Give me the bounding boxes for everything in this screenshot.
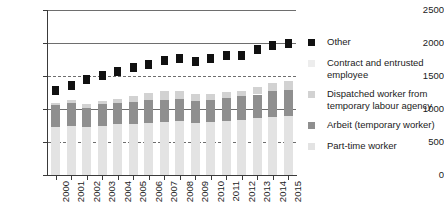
x-axis-tick-label: 2010 bbox=[216, 181, 226, 202]
data-point-marker bbox=[68, 81, 75, 90]
legend-swatch-icon bbox=[308, 39, 315, 46]
data-point-marker bbox=[99, 71, 106, 80]
x-axis-tick-label: 2008 bbox=[185, 181, 195, 202]
x-axis-tick-label: 2011 bbox=[231, 181, 241, 201]
x-axis-tick-label: 2003 bbox=[107, 181, 117, 202]
x-axis-tick-label: 2004 bbox=[123, 181, 133, 202]
data-point-marker bbox=[52, 86, 59, 95]
legend-label: Contract and entrustedemployee bbox=[327, 57, 444, 80]
data-point-marker bbox=[285, 39, 292, 48]
x-axis-tick-mark bbox=[257, 175, 258, 180]
x-axis-tick-mark bbox=[56, 175, 57, 180]
data-point-marker bbox=[238, 51, 245, 60]
legend-item[interactable]: Dispatched worker fromtemporary labour a… bbox=[308, 88, 444, 111]
x-axis-tick-mark bbox=[180, 175, 181, 180]
x-axis-tick-mark bbox=[133, 175, 134, 180]
legend-item[interactable]: Arbeit (temporary worker) bbox=[308, 119, 444, 132]
legend-label: Part-time worker bbox=[327, 140, 444, 152]
data-point-marker bbox=[254, 45, 261, 54]
x-axis-line bbox=[47, 175, 297, 176]
x-axis-tick-label: 2009 bbox=[200, 181, 210, 202]
legend-swatch-icon bbox=[308, 122, 315, 129]
legend: OtherContract and entrustedemployeeDispa… bbox=[308, 36, 444, 161]
x-axis-tick-label: 2013 bbox=[262, 181, 272, 202]
x-axis-tick-mark bbox=[273, 175, 274, 180]
y-axis-tick-mark bbox=[43, 175, 48, 176]
x-axis-tick-mark bbox=[195, 175, 196, 180]
x-axis-tick-mark bbox=[211, 175, 212, 180]
x-axis-tick-mark bbox=[164, 175, 165, 180]
y-axis-tick-label: 0 bbox=[404, 170, 444, 179]
x-axis-tick-mark bbox=[149, 175, 150, 180]
data-point-marker bbox=[223, 51, 230, 60]
x-axis-tick-label: 2007 bbox=[169, 181, 179, 202]
y-axis-tick-label: 2500 bbox=[404, 5, 444, 14]
legend-label: Arbeit (temporary worker) bbox=[327, 119, 444, 131]
legend-item[interactable]: Contract and entrustedemployee bbox=[308, 57, 444, 80]
x-axis-tick-label: 2014 bbox=[278, 181, 288, 202]
data-point-marker bbox=[145, 60, 152, 69]
data-point-marker bbox=[161, 56, 168, 65]
x-axis-tick-label: 2015 bbox=[293, 181, 303, 202]
x-axis-tick-mark bbox=[288, 175, 289, 180]
legend-swatch-icon bbox=[308, 143, 315, 150]
data-point-marker bbox=[192, 57, 199, 66]
x-axis-tick-mark bbox=[242, 175, 243, 180]
x-axis-tick-label: 2012 bbox=[247, 181, 257, 202]
x-axis-tick-mark bbox=[87, 175, 88, 180]
x-axis-tick-mark bbox=[71, 175, 72, 180]
x-axis-tick-label: 2001 bbox=[76, 181, 86, 202]
legend-swatch-icon bbox=[308, 91, 315, 98]
x-axis-tick-label: 2006 bbox=[154, 181, 164, 202]
legend-label: Other bbox=[327, 36, 444, 48]
x-axis-tick-label: 2005 bbox=[138, 181, 148, 202]
data-point-marker bbox=[83, 75, 90, 84]
legend-swatch-icon bbox=[308, 60, 315, 67]
data-point-marker bbox=[269, 41, 276, 50]
legend-item[interactable]: Part-time worker bbox=[308, 140, 444, 153]
data-point-marker bbox=[114, 67, 121, 76]
data-point-marker bbox=[207, 54, 214, 63]
x-axis-tick-mark bbox=[102, 175, 103, 180]
legend-item[interactable]: Other bbox=[308, 36, 444, 49]
x-axis-tick-label: 2002 bbox=[92, 181, 102, 202]
x-axis-tick-mark bbox=[226, 175, 227, 180]
chart-container: 05001000150020002500 2000200120022003200… bbox=[0, 0, 444, 220]
legend-label: Dispatched worker fromtemporary labour a… bbox=[327, 88, 444, 111]
data-point-marker bbox=[130, 63, 137, 72]
markers-layer bbox=[48, 10, 296, 175]
x-axis-tick-label: 2000 bbox=[61, 181, 71, 202]
x-axis-tick-mark bbox=[118, 175, 119, 180]
data-point-marker bbox=[176, 54, 183, 63]
